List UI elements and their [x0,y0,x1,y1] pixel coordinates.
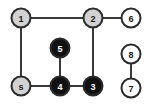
graph-node-2[interactable]: 2 [84,9,103,28]
node-label-8: 8 [128,50,133,60]
graph-diagram: 12687s543 [0,0,151,105]
node-label-3: 3 [90,82,95,92]
node-label-s: s [18,82,23,92]
graph-node-3[interactable]: 3 [84,77,103,96]
node-label-1: 1 [18,14,23,24]
graph-svg-root: 12687s543 [0,0,151,105]
graph-node-7[interactable]: 7 [122,79,141,98]
node-label-5: 5 [57,44,62,54]
graph-node-5[interactable]: 5 [51,39,70,58]
node-label-2: 2 [90,14,95,24]
node-layer: 12687s543 [12,9,141,98]
node-label-6: 6 [128,14,133,24]
node-label-7: 7 [128,84,133,94]
graph-node-4[interactable]: 4 [51,77,70,96]
node-label-4: 4 [57,82,62,92]
graph-node-s[interactable]: s [12,77,31,96]
graph-node-8[interactable]: 8 [122,45,141,64]
edge-layer [21,18,131,88]
graph-node-1[interactable]: 1 [12,9,31,28]
graph-node-6[interactable]: 6 [122,9,141,28]
